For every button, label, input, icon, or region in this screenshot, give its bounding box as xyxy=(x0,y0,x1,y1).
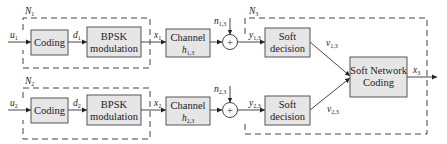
soft-out-v23-label: v2,3 xyxy=(327,104,339,115)
adder-2-symbol: + xyxy=(227,105,233,116)
soft-decision-1-line2: decision xyxy=(270,43,306,54)
node-n1-label: N1 xyxy=(24,6,34,17)
output-x3-label: x3 xyxy=(412,65,420,76)
soft-decision-2-line1: Soft xyxy=(279,99,297,110)
bpsk-block-2-line2: modulation xyxy=(90,111,139,122)
coding-block-2-label: Coding xyxy=(34,105,66,116)
coding-block-1-label: Coding xyxy=(34,37,66,48)
channel-block-2-line1: Channel xyxy=(171,100,206,111)
soft-decision-1-line1: Soft xyxy=(279,31,297,42)
noise-n13-label: n1,3 xyxy=(214,16,226,27)
soft-out-v13-label: v1,3 xyxy=(326,38,338,49)
tx-x2-label: x2 xyxy=(153,98,161,109)
coded-d2-label: d2 xyxy=(73,98,81,109)
node-n2-label: N2 xyxy=(24,76,34,87)
bpsk-block-2-line1: BPSK xyxy=(101,99,128,110)
rx-y23-label: y2,3 xyxy=(248,98,261,109)
bpsk-block-1-line2: modulation xyxy=(90,43,139,54)
snc-line1: Soft Network xyxy=(350,65,408,76)
input-u1-label: u1 xyxy=(10,30,18,41)
snc-line2: Coding xyxy=(363,77,395,88)
node-n3-label: N3 xyxy=(248,6,258,17)
system-block-diagram: N1 N2 N3 u1 Coding d1 BPSK modulation x1… xyxy=(0,0,447,144)
input-u2-label: u2 xyxy=(10,98,18,109)
tx-x1-label: x1 xyxy=(153,30,161,41)
noise-n23-label: n2,3 xyxy=(214,84,226,95)
adder-1-symbol: + xyxy=(227,37,233,48)
rx-y13-label: y1,3 xyxy=(248,30,261,41)
bpsk-block-1-line1: BPSK xyxy=(101,31,128,42)
channel-block-1-line1: Channel xyxy=(171,32,206,43)
coded-d1-label: d1 xyxy=(73,30,81,41)
soft-decision-2-line2: decision xyxy=(270,111,306,122)
